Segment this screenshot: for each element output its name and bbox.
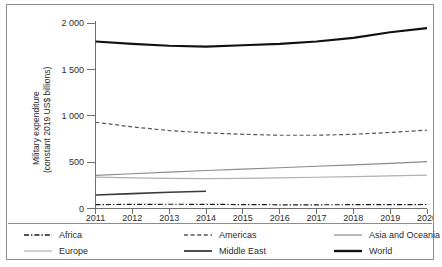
legend-item-europe[interactable]: Europe [23, 246, 183, 256]
chart-frame: Military expenditure (constant 2019 US$ … [6, 4, 434, 260]
legend-item-africa[interactable]: Africa [23, 230, 183, 240]
series-group [96, 28, 428, 205]
legend-label: Americas [219, 231, 257, 240]
legend-label: Asia and Oceania [369, 231, 440, 240]
legend-item-world[interactable]: World [333, 246, 442, 256]
legend-divider [8, 223, 432, 224]
x-tick-label: 2016 [270, 213, 290, 221]
y-tick-label: 0 [79, 204, 84, 214]
legend-swatch-middle-east [183, 246, 213, 256]
plot-region: Military expenditure (constant 2019 US$ … [7, 5, 433, 221]
x-tick-label: 2020 [417, 213, 433, 221]
x-tick-label: 2017 [306, 213, 326, 221]
x-tick-label: 2014 [196, 213, 216, 221]
x-tick-label: 2013 [159, 213, 179, 221]
x-tick-label: 2018 [343, 213, 363, 221]
y-tick-label: 500 [69, 157, 84, 167]
x-axis-ticks: 2011201220132014201520162017201820192020 [86, 209, 433, 222]
series-line-middle-east [96, 191, 207, 195]
x-tick-label: 2015 [233, 213, 253, 221]
legend-item-asia-and-oceania[interactable]: Asia and Oceania [333, 230, 442, 240]
legend-label: Middle East [219, 247, 266, 256]
legend-item-middle-east[interactable]: Middle East [183, 246, 333, 256]
y-axis-title-line2: (constant 2019 US$ billions) [42, 67, 52, 173]
series-line-americas [96, 122, 428, 135]
series-line-europe [96, 175, 428, 179]
x-tick-label: 2012 [122, 213, 142, 221]
x-tick-label: 2019 [380, 213, 400, 221]
legend-swatch-americas [183, 230, 213, 240]
x-tick-label: 2011 [86, 213, 105, 221]
legend-label: Africa [59, 231, 82, 240]
legend-swatch-world [333, 246, 363, 256]
series-line-world [96, 28, 428, 47]
legend-label: World [369, 247, 392, 256]
y-tick-label: 1 500 [61, 65, 84, 75]
y-axis-title-line1: Military expenditure [31, 91, 41, 165]
legend-swatch-africa [23, 230, 53, 240]
legend-item-americas[interactable]: Americas [183, 230, 333, 240]
y-tick-label: 1 000 [61, 111, 84, 121]
series-line-africa [96, 204, 428, 205]
y-axis-ticks: 05001 0001 5002 000 [61, 18, 95, 214]
legend-swatch-asia-and-oceania [333, 230, 363, 240]
series-line-asia-and-oceania [96, 162, 428, 176]
legend-label: Europe [59, 247, 88, 256]
chart-legend: AfricaAmericasAsia and OceaniaEuropeMidd… [7, 227, 433, 259]
y-tick-label: 2 000 [61, 18, 84, 28]
legend-swatch-europe [23, 246, 53, 256]
line-chart: Military expenditure (constant 2019 US$ … [7, 5, 433, 221]
y-axis-title: Military expenditure (constant 2019 US$ … [31, 67, 52, 173]
